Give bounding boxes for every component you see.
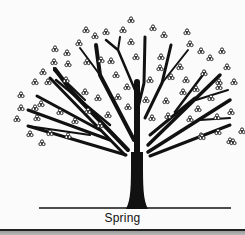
- blossom-icon: [150, 25, 156, 31]
- blossom-icon: [177, 64, 183, 70]
- blossom-icon: [32, 79, 38, 85]
- branch: [118, 37, 120, 50]
- blossom-icon: [103, 29, 109, 35]
- blossom-icon: [32, 105, 38, 111]
- blossom-icon: [147, 77, 153, 83]
- blossom-icon: [228, 109, 234, 115]
- blossom-icon: [133, 54, 139, 60]
- blossom-icon: [158, 54, 164, 60]
- blossom-icon: [92, 33, 98, 39]
- branch: [136, 37, 145, 116]
- blossom-icon: [187, 41, 193, 47]
- blossom-icon: [219, 48, 225, 54]
- blossom-icon: [39, 140, 45, 146]
- blossom-icon: [187, 116, 193, 122]
- blossom-icon: [239, 128, 245, 134]
- blossom-icon: [201, 70, 207, 76]
- blossom-clusters: [14, 17, 245, 146]
- blossom-icon: [14, 116, 20, 122]
- blossom-icon: [161, 32, 167, 38]
- blossom-icon: [65, 61, 71, 67]
- blossom-icon: [95, 95, 101, 101]
- branch: [106, 40, 135, 90]
- blossom-icon: [165, 113, 171, 119]
- blossom-icon: [18, 92, 24, 98]
- blossom-icon: [224, 64, 230, 70]
- blossom-icon: [82, 89, 88, 95]
- season-caption: Spring: [0, 211, 245, 225]
- blossom-icon: [105, 112, 111, 118]
- spring-tree-illustration: Spring: [0, 0, 245, 235]
- blossom-icon: [108, 58, 114, 64]
- blossom-icon: [143, 97, 149, 103]
- branch: [56, 80, 110, 125]
- blossom-icon: [149, 115, 155, 121]
- blossom-icon: [34, 115, 40, 121]
- blossom-icon: [180, 89, 186, 95]
- blossom-icon: [207, 55, 213, 61]
- tree-drawing: [0, 0, 245, 235]
- blossom-icon: [65, 133, 71, 139]
- blossom-icon: [52, 46, 58, 52]
- blossom-icon: [124, 84, 130, 90]
- blossom-icon: [198, 48, 204, 54]
- blossom-icon: [83, 27, 89, 33]
- blossom-icon: [183, 77, 189, 83]
- blossom-icon: [157, 65, 163, 71]
- blossom-icon: [195, 106, 201, 112]
- blossom-icon: [231, 79, 237, 85]
- blossom-icon: [38, 101, 44, 107]
- blossom-icon: [163, 98, 169, 104]
- blossom-icon: [128, 17, 134, 23]
- blossom-icon: [125, 104, 131, 110]
- page-edge-border: [0, 229, 245, 235]
- blossom-icon: [120, 27, 126, 33]
- blossom-icon: [27, 131, 33, 137]
- tree-trunk: [126, 152, 148, 209]
- blossom-icon: [113, 72, 119, 78]
- blossom-icon: [184, 29, 190, 35]
- blossom-icon: [115, 94, 121, 100]
- blossom-icon: [76, 40, 82, 46]
- blossom-icon: [214, 114, 220, 120]
- blossom-icon: [51, 59, 57, 65]
- blossom-icon: [64, 50, 70, 56]
- blossom-icon: [18, 105, 24, 111]
- blossom-icon: [128, 39, 134, 45]
- blossom-icon: [40, 69, 46, 75]
